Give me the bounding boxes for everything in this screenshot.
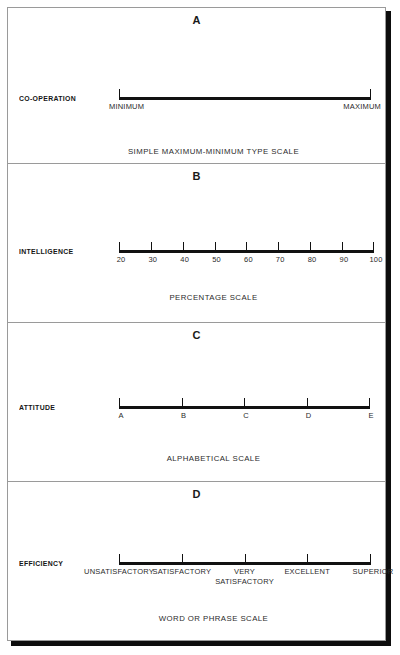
panel-c-tick-label-d: D [306, 411, 312, 420]
panel-c-tick-c [244, 398, 245, 409]
panel-b-scale: 20 30 40 50 60 70 80 90 100 [119, 239, 374, 265]
panel-d-caption: WORD OR PHRASE SCALE [8, 614, 385, 623]
panel-d-trait-label: EFFICIENCY [19, 559, 63, 568]
panel-a-caption-text: SIMPLE MAXIMUM-MINIMUM TYPE SCALE [128, 147, 299, 156]
panel-c-tick-a [119, 398, 120, 409]
rating-scales-figure: A CO-OPERATION MINIMUM MAXIMUM SIMPLE MA… [7, 7, 386, 641]
panel-b-tick-60 [246, 242, 247, 253]
panel-a-tick-max [370, 89, 371, 100]
panel-c-tick-b [182, 398, 183, 409]
panel-d-tick-label-unsatisfactory: UNSATISFACTORY [84, 567, 154, 576]
panel-a-tick-label-max: MAXIMUM [343, 102, 381, 111]
panel-b-tick-label-30: 30 [148, 255, 157, 264]
panel-b-tick-label-100: 100 [369, 255, 382, 264]
panel-a-tick-min [119, 89, 120, 100]
panel-a-caption: SIMPLE MAXIMUM-MINIMUM TYPE SCALE [8, 147, 385, 156]
panel-b-tick-30 [151, 242, 152, 253]
panel-c-trait-label: ATTITUDE [19, 403, 55, 412]
panel-a: A CO-OPERATION MINIMUM MAXIMUM SIMPLE MA… [8, 8, 385, 164]
panel-b-tick-label-50: 50 [212, 255, 221, 264]
panel-c-tick-e [369, 398, 370, 409]
panel-b-caption: PERCENTAGE SCALE [8, 293, 385, 302]
panel-b-tick-label-90: 90 [340, 255, 349, 264]
panel-c-caption: ALPHABETICAL SCALE [8, 454, 385, 463]
panel-b-tick-label-60: 60 [244, 255, 253, 264]
panel-d-caption-text: WORD OR PHRASE SCALE [159, 614, 269, 623]
panel-d-scale: UNSATISFACTORY SATISFACTORY VERY SATISFA… [119, 551, 371, 577]
panel-c-tick-label-b: B [181, 411, 186, 420]
panel-d-tick-unsatisfactory [119, 554, 120, 565]
panel-b-tick-20 [119, 242, 120, 253]
panel-d-tick-superior [370, 554, 371, 565]
panel-b-tick-40 [183, 242, 184, 253]
panel-a-tick-label-min: MINIMUM [109, 102, 144, 111]
panel-b-trait-label: INTELLIGENCE [19, 247, 73, 256]
figure-shadow-right [386, 11, 391, 645]
panel-d-tick-satisfactory [182, 554, 183, 565]
panel-b-tick-100 [373, 242, 374, 253]
panel-b-tick-label-70: 70 [276, 255, 285, 264]
panel-c-tick-label-c: C [243, 411, 249, 420]
panel-c-scale: A B C D E [119, 395, 370, 421]
panel-b-tick-50 [215, 242, 216, 253]
panel-a-trait-label: CO-OPERATION [19, 94, 76, 103]
panel-d-tick-label-very-line2: SATISFACTORY [215, 577, 274, 586]
panel-a-scale-bar [119, 97, 371, 100]
panel-d-tick-excellent [307, 554, 308, 565]
panel-b-letter: B [8, 170, 385, 182]
panel-b-tick-label-80: 80 [308, 255, 317, 264]
panel-d-tick-label-satisfactory: SATISFACTORY [152, 567, 211, 576]
panel-b-caption-text: PERCENTAGE SCALE [169, 293, 257, 302]
panel-c-caption-text: ALPHABETICAL SCALE [167, 454, 261, 463]
panel-c: C ATTITUDE A B C D E ALPHABETICAL SCALE [8, 323, 385, 482]
panel-c-tick-label-a: A [118, 411, 123, 420]
panel-b-tick-label-40: 40 [180, 255, 189, 264]
panel-d-tick-label-excellent: EXCELLENT [284, 567, 330, 576]
panel-d-tick-very-satisfactory [245, 554, 246, 565]
figure-shadow-bottom [11, 641, 391, 646]
panel-d-letter: D [8, 488, 385, 500]
panel-b-tick-90 [342, 242, 343, 253]
panel-b-tick-80 [310, 242, 311, 253]
panel-a-scale: MINIMUM MAXIMUM [119, 86, 371, 112]
panel-d-tick-label-very-satisfactory: VERY SATISFACTORY [215, 567, 274, 586]
panel-a-letter: A [8, 14, 385, 26]
panel-d-tick-label-very-line1: VERY [234, 567, 255, 576]
panel-b: B INTELLIGENCE 20 30 40 50 60 70 80 90 1… [8, 164, 385, 323]
panel-b-tick-label-20: 20 [117, 255, 126, 264]
panel-d: D EFFICIENCY UNSATISFACTORY SATISFACTORY… [8, 482, 385, 641]
panel-c-letter: C [8, 329, 385, 341]
panel-c-tick-d [307, 398, 308, 409]
panel-b-tick-70 [278, 242, 279, 253]
panel-d-tick-label-superior: SUPERIOR [353, 567, 394, 576]
panel-c-tick-label-e: E [368, 411, 373, 420]
